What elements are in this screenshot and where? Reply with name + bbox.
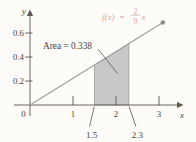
y-axis-arrow	[27, 10, 33, 17]
y-tick-label: 0.2	[13, 76, 24, 86]
shaded-region	[95, 44, 129, 105]
x-axis-arrow	[177, 102, 184, 108]
leader-line-left	[90, 107, 95, 127]
area-chart-canvas: 1230.20.40.60xy1.52.3Area = 0.338f(x)=29…	[0, 0, 196, 142]
x-tick-label: 3	[157, 109, 162, 119]
region-end-label: 2.3	[132, 130, 144, 140]
function-label-lhs: f(x)	[102, 12, 115, 22]
origin-label: 0	[21, 109, 26, 119]
function-label-denominator: 9	[134, 17, 138, 26]
y-tick-label: 0.4	[13, 52, 25, 62]
area-annotation: Area = 0.338	[43, 41, 92, 51]
leader-line-right	[129, 107, 136, 127]
y-axis-label: y	[21, 6, 26, 16]
x-tick-label: 2	[114, 109, 118, 119]
line-endpoint-dot	[161, 20, 165, 24]
region-start-label: 1.5	[86, 130, 98, 140]
figure-area-under-line: 1230.20.40.60xy1.52.3Area = 0.338f(x)=29…	[0, 0, 196, 142]
function-label-numerator: 2	[134, 7, 138, 16]
x-axis-label: x	[179, 110, 184, 120]
y-tick-label: 0.6	[13, 28, 25, 38]
function-label-variable: x	[141, 12, 146, 22]
function-label-equals: =	[120, 12, 125, 22]
x-tick-label: 1	[71, 109, 75, 119]
